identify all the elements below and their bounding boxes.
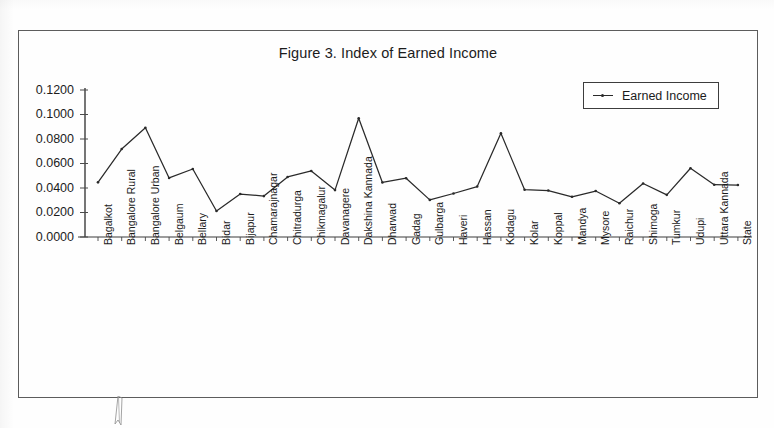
page-canvas: Figure 3. Index of Earned Income 0.00000… <box>0 0 774 428</box>
chart-title: Figure 3. Index of Earned Income <box>19 45 757 61</box>
legend-entry-label: Earned Income <box>622 89 707 103</box>
chart-legend: Earned Income <box>583 82 719 109</box>
legend-line-marker-icon <box>593 95 613 96</box>
scan-edge-artifact <box>112 396 128 426</box>
legend-entry: Earned Income <box>584 83 718 108</box>
